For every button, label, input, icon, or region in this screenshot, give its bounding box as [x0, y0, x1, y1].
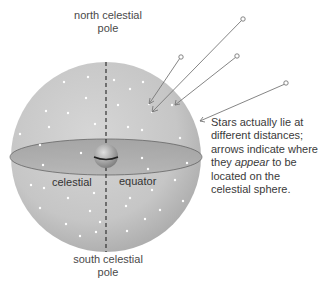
north-celestial-pole-label: north celestial pole: [60, 9, 156, 35]
north-pole-label-line2: pole: [60, 22, 156, 35]
caption-emphasis: appear: [235, 156, 269, 168]
diagram-caption: Stars actually lie at different distance…: [211, 116, 318, 196]
south-pole-label-line1: south celestial: [58, 253, 158, 266]
north-pole-label-line1: north celestial: [60, 9, 156, 22]
south-pole-label-line2: pole: [58, 266, 158, 279]
equator-label: equator: [119, 175, 156, 188]
earth-icon: [94, 144, 118, 168]
celestial-label: celestial: [52, 176, 92, 189]
south-celestial-pole-label: south celestial pole: [58, 253, 158, 279]
celestial-sphere-diagram: north celestial pole celestial equator s…: [0, 0, 318, 281]
